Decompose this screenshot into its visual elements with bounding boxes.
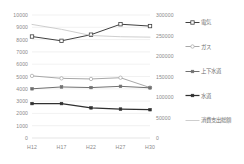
legend-item-4[interactable]: 消費支出総額 bbox=[185, 115, 232, 125]
y-right-tick-4: 200000 bbox=[156, 53, 186, 59]
y-right-tick-6: 300000 bbox=[156, 12, 186, 18]
legend-marker-icon bbox=[185, 67, 200, 76]
chart-legend: 電気ガス上下水道水道消費支出総額 bbox=[185, 15, 244, 138]
y-left-tick-5: 5000 bbox=[2, 74, 28, 80]
y-right-tick-0: 0 bbox=[156, 135, 186, 141]
legend-label: 消費支出総額 bbox=[201, 116, 232, 124]
x-tick-2: H22 bbox=[79, 144, 103, 150]
x-tick-1: H17 bbox=[50, 144, 74, 150]
legend-label: 電気 bbox=[201, 18, 211, 26]
chart-container: 電気ガス上下水道水道消費支出総額 01000200030004000500060… bbox=[0, 0, 244, 164]
y-left-tick-8: 8000 bbox=[2, 37, 28, 43]
y-right-tick-3: 150000 bbox=[156, 74, 186, 80]
y-left-tick-2: 2000 bbox=[2, 110, 28, 116]
x-tick-3: H27 bbox=[109, 144, 133, 150]
legend-marker-icon bbox=[185, 42, 200, 51]
legend-label: 上下水道 bbox=[201, 67, 221, 75]
y-left-tick-0: 0 bbox=[2, 135, 28, 141]
legend-marker-icon bbox=[185, 18, 200, 27]
legend-item-0[interactable]: 電気 bbox=[185, 17, 211, 27]
series-layer bbox=[30, 23, 151, 111]
y-right-tick-5: 250000 bbox=[156, 33, 186, 39]
legend-item-3[interactable]: 水道 bbox=[185, 91, 211, 101]
y-left-tick-4: 4000 bbox=[2, 86, 28, 92]
y-left-tick-6: 6000 bbox=[2, 61, 28, 67]
legend-marker-icon bbox=[185, 91, 200, 100]
y-left-tick-9: 9000 bbox=[2, 24, 28, 30]
x-tick-0: H12 bbox=[20, 144, 44, 150]
y-right-tick-1: 50000 bbox=[156, 115, 186, 121]
legend-marker-icon bbox=[185, 116, 200, 125]
x-tick-4: H30 bbox=[138, 144, 162, 150]
legend-item-1[interactable]: ガス bbox=[185, 42, 211, 52]
series-3 bbox=[31, 102, 152, 111]
legend-label: ガス bbox=[201, 43, 211, 51]
y-left-tick-7: 7000 bbox=[2, 49, 28, 55]
y-left-tick-10: 10000 bbox=[2, 12, 28, 18]
series-4 bbox=[32, 24, 150, 37]
y-left-tick-3: 3000 bbox=[2, 98, 28, 104]
legend-label: 水道 bbox=[201, 92, 211, 100]
series-2 bbox=[31, 85, 152, 90]
y-left-tick-1: 1000 bbox=[2, 123, 28, 129]
y-right-tick-2: 100000 bbox=[156, 94, 186, 100]
legend-item-2[interactable]: 上下水道 bbox=[185, 66, 221, 76]
